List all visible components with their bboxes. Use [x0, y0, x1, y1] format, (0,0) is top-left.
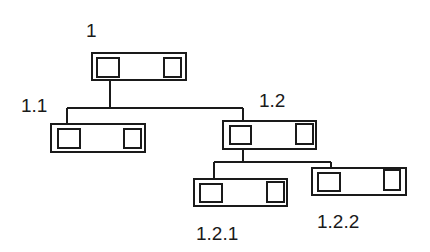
tree-graphic: [0, 0, 430, 252]
tree-diagram: 1 1.1 1.2 1.2.1 1.2.2: [0, 0, 430, 252]
node-1: [92, 53, 186, 80]
edge-1-2-children: [214, 149, 331, 179]
label-node-1-2-2: 1.2.2: [317, 212, 359, 231]
label-node-1-2-1: 1.2.1: [196, 224, 238, 243]
node-1-right-pointer-box: [164, 58, 181, 77]
node-1-1: [51, 124, 145, 152]
edge-1-children: [67, 80, 243, 124]
node-1-2-2: [312, 168, 406, 195]
node-1-2: [223, 121, 316, 149]
node-1-left-pointer-box: [97, 58, 119, 77]
label-node-1-2: 1.2: [259, 91, 285, 110]
label-node-1: 1: [86, 21, 97, 40]
label-node-1-1: 1.1: [21, 96, 47, 115]
node-1-2-1: [194, 179, 287, 206]
